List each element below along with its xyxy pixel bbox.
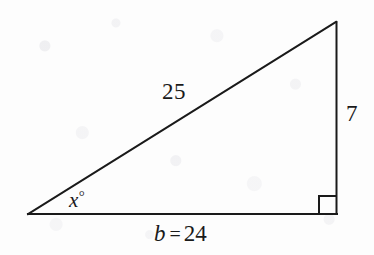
- opposite-leg-length-label: 7: [346, 102, 358, 125]
- angle-variable-text: x: [69, 188, 78, 212]
- degree-symbol-icon: °: [79, 188, 85, 204]
- base-angle-label: x°: [69, 189, 85, 211]
- right-triangle-figure: 25 7 x° b=24: [0, 0, 374, 255]
- base-variable-text: b: [154, 221, 166, 246]
- base-value-text: 24: [184, 221, 207, 246]
- hypotenuse-line: [28, 22, 336, 214]
- triangle-drawing: [0, 0, 374, 255]
- base-length-label: b=24: [154, 222, 207, 245]
- hypotenuse-length-label: 25: [162, 80, 186, 103]
- right-angle-marker-icon: [319, 196, 336, 213]
- equals-sign-text: =: [170, 223, 181, 245]
